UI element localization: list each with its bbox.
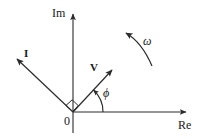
phasor-diagram-figure: Im Re 0 V I ϕ ω — [0, 0, 203, 139]
angular-velocity-label: ω — [143, 35, 151, 47]
origin-label: 0 — [64, 115, 70, 127]
imaginary-axis-label: Im — [52, 7, 65, 19]
right-angle-marker — [66, 100, 78, 112]
phase-angle-label: ϕ — [103, 87, 109, 99]
phasor-diagram-canvas — [0, 0, 203, 139]
current-phasor-arrow — [17, 59, 73, 112]
current-phasor-label: I — [24, 48, 28, 59]
voltage-phasor-label: V — [90, 62, 98, 73]
real-axis-label: Re — [178, 119, 191, 131]
phase-angle-arc — [94, 90, 104, 112]
